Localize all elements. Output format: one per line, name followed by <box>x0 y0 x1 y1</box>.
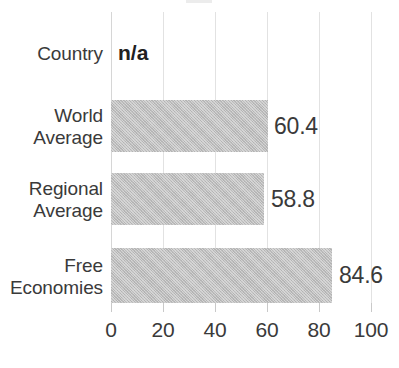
bar-free-economies <box>111 248 332 303</box>
axis-tick-80 <box>319 303 320 312</box>
category-label-line1: World <box>0 105 103 127</box>
axis-tick-0 <box>111 303 112 312</box>
category-label-country: Country <box>0 43 103 65</box>
value-label-world-average: 60.4 <box>274 113 318 139</box>
bar-regional-average <box>111 173 264 225</box>
category-label-line1: Regional <box>0 178 103 200</box>
x-tick-label-20: 20 <box>152 318 175 342</box>
category-label-line2: Average <box>0 200 103 222</box>
category-label-line1: Free <box>0 255 103 277</box>
x-tick-label-40: 40 <box>204 318 227 342</box>
category-label-free-economies: Free Economies <box>0 255 103 299</box>
value-label-regional-average: 58.8 <box>271 186 315 212</box>
category-label-world-average: World Average <box>0 105 103 149</box>
axis-tick-40 <box>215 303 216 312</box>
x-tick-label-80: 80 <box>308 318 331 342</box>
x-tick-label-60: 60 <box>256 318 279 342</box>
axis-tick-100 <box>371 303 372 312</box>
axis-tick-20 <box>163 303 164 312</box>
category-label-regional-average: Regional Average <box>0 178 103 222</box>
value-label-free-economies: 84.6 <box>339 262 383 288</box>
bar-world-average <box>111 100 268 152</box>
x-tick-label-100: 100 <box>354 318 388 342</box>
value-label-country: n/a <box>118 41 148 65</box>
axis-tick-60 <box>267 303 268 312</box>
category-label-line2: Economies <box>0 277 103 299</box>
category-label-line1: Country <box>0 43 103 65</box>
bar-chart: Country n/a World Average 60.4 Regional … <box>0 0 399 368</box>
x-tick-label-0: 0 <box>105 318 116 342</box>
category-label-line2: Average <box>0 127 103 149</box>
